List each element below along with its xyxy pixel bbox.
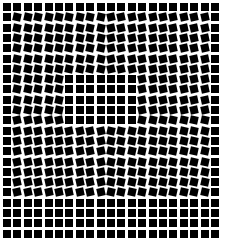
grid-square xyxy=(54,116,63,125)
grid-square xyxy=(34,3,42,11)
grid-square xyxy=(200,74,209,83)
grid-square xyxy=(33,74,42,83)
grid-square xyxy=(45,3,53,11)
grid-square xyxy=(148,146,157,155)
grid-square xyxy=(128,230,136,238)
grid-square xyxy=(107,75,115,83)
grid-square xyxy=(65,106,73,114)
grid-square xyxy=(179,23,188,32)
grid-square xyxy=(106,126,115,135)
grid-square xyxy=(65,33,74,42)
grid-square xyxy=(13,188,22,197)
grid-square xyxy=(54,54,63,63)
grid-square xyxy=(65,23,74,32)
grid-square xyxy=(148,64,157,73)
grid-square xyxy=(169,230,177,238)
grid-square xyxy=(127,167,136,176)
grid-square xyxy=(148,85,157,94)
grid-square xyxy=(96,54,105,63)
grid-square xyxy=(97,230,105,238)
grid-square xyxy=(65,75,73,83)
grid-square xyxy=(180,3,188,11)
grid-square xyxy=(158,74,167,83)
grid-square xyxy=(86,106,94,114)
grid-square xyxy=(179,105,188,114)
grid-square xyxy=(201,230,209,238)
grid-square xyxy=(137,85,146,94)
grid-square xyxy=(148,33,157,42)
grid-square xyxy=(33,167,42,176)
grid-square xyxy=(169,157,178,166)
grid-square xyxy=(55,199,63,207)
grid-square xyxy=(211,168,219,176)
grid-square xyxy=(3,3,11,11)
grid-square xyxy=(128,85,136,93)
grid-square xyxy=(137,95,146,104)
grid-square xyxy=(76,96,84,104)
grid-square xyxy=(107,199,115,207)
grid-square xyxy=(33,136,42,145)
grid-square xyxy=(54,13,63,22)
grid-square xyxy=(54,64,63,73)
grid-square xyxy=(76,219,84,227)
grid-square xyxy=(211,116,219,124)
grid-square xyxy=(34,230,42,238)
grid-square xyxy=(149,230,157,238)
grid-square xyxy=(86,199,94,207)
grid-square xyxy=(169,74,178,83)
grid-square xyxy=(3,168,11,176)
grid-square xyxy=(158,157,167,166)
grid-square xyxy=(106,33,115,42)
grid-square xyxy=(169,116,178,125)
grid-square xyxy=(158,177,167,186)
grid-square xyxy=(169,188,178,197)
grid-square xyxy=(117,13,126,22)
grid-square xyxy=(211,147,219,155)
grid-square xyxy=(33,95,42,104)
grid-square xyxy=(107,106,115,114)
grid-square xyxy=(148,23,157,32)
grid-square xyxy=(65,219,73,227)
grid-square xyxy=(201,219,209,227)
illusion-canvas xyxy=(0,0,226,243)
grid-square xyxy=(169,54,178,63)
grid-square xyxy=(65,126,74,135)
grid-square xyxy=(65,157,74,166)
grid-square xyxy=(13,146,22,155)
grid-square xyxy=(169,126,178,135)
grid-square xyxy=(97,219,105,227)
grid-square xyxy=(158,95,167,104)
grid-square xyxy=(189,157,198,166)
grid-square xyxy=(33,33,42,42)
grid-square xyxy=(148,126,157,135)
grid-square xyxy=(45,209,53,217)
grid-square xyxy=(169,43,178,52)
grid-square xyxy=(75,43,84,52)
grid-square xyxy=(190,219,198,227)
grid-square xyxy=(200,177,209,186)
grid-square xyxy=(211,188,219,196)
grid-square xyxy=(44,33,53,42)
grid-square xyxy=(107,85,115,93)
grid-square xyxy=(54,23,63,32)
grid-square xyxy=(3,147,11,155)
grid-square xyxy=(3,24,11,32)
grid-square xyxy=(117,43,126,52)
grid-square xyxy=(158,136,167,145)
grid-square xyxy=(54,157,63,166)
grid-square xyxy=(13,85,22,94)
grid-square xyxy=(117,3,125,11)
grid-square xyxy=(96,167,105,176)
grid-square xyxy=(85,188,94,197)
grid-square xyxy=(189,105,198,114)
grid-square xyxy=(117,219,125,227)
grid-square xyxy=(117,75,125,83)
grid-square xyxy=(54,74,63,83)
grid-square xyxy=(33,23,42,32)
grid-square xyxy=(75,136,84,145)
grid-square xyxy=(211,219,219,227)
grid-square xyxy=(85,64,94,73)
grid-square xyxy=(23,126,32,135)
grid-square xyxy=(55,230,63,238)
grid-square xyxy=(3,137,11,145)
